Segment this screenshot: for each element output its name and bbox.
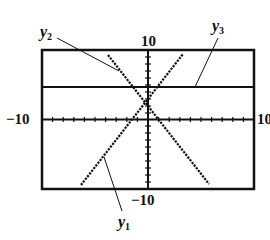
y2-leader-line [57, 38, 119, 71]
y1-leader-line [104, 157, 122, 211]
y1-label-sub: 1 [125, 221, 130, 232]
x-max-label: 10 [257, 112, 270, 127]
y3-label: y3 [212, 18, 224, 36]
y2-label: y2 [40, 24, 52, 42]
y1-label: y1 [118, 214, 130, 232]
y2-label-sub: 2 [47, 31, 52, 42]
x-min-label: −10 [6, 112, 30, 127]
y-min-label: −10 [131, 193, 155, 208]
y3-leader-line [195, 38, 218, 87]
y-max-label: 10 [141, 34, 156, 49]
y3-label-sub: 3 [219, 25, 224, 36]
